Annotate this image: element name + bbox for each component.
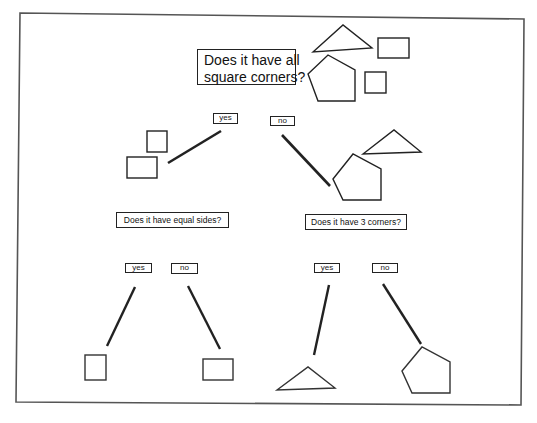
root-question: Does it have all square corners? [197, 49, 296, 85]
pentagon-result [402, 347, 450, 393]
equal-sides-yes-label: yes [125, 263, 152, 273]
three-corners-yes-connector [314, 285, 329, 355]
rectangle-shape [378, 38, 409, 58]
rectangle-result [203, 359, 233, 380]
equal-sides-no-connector [188, 286, 220, 349]
root-yes-label: yes [213, 113, 238, 124]
yes-branch-shapes [127, 131, 167, 178]
triangle-result [277, 367, 335, 390]
pentagon-shape [333, 154, 381, 200]
result-shapes [85, 347, 450, 393]
no-connector [282, 135, 330, 186]
yes-connector [168, 131, 221, 163]
root-question-line-1: Does it have all [204, 52, 289, 69]
triangle-shape [313, 25, 372, 52]
equal-sides-yes-connector [107, 287, 135, 346]
rectangle-shape [127, 157, 157, 178]
three-corners-no-connector [383, 284, 421, 344]
triangle-shape [363, 130, 421, 154]
root-shapes [308, 25, 409, 101]
square-shape [147, 131, 167, 152]
square-shape [365, 72, 386, 93]
square-result [85, 355, 106, 380]
three-corners-yes-label: yes [314, 263, 340, 273]
equal-sides-question: Does it have equal sides? [116, 212, 229, 228]
three-corners-no-label: no [372, 263, 398, 273]
three-corners-question: Does it have 3 corners? [305, 214, 407, 230]
root-no-label: no [270, 116, 295, 126]
equal-sides-no-label: no [171, 263, 198, 274]
pentagon-shape [308, 55, 355, 101]
root-question-line-2: square corners? [204, 69, 289, 86]
no-branch-shapes [333, 130, 421, 200]
